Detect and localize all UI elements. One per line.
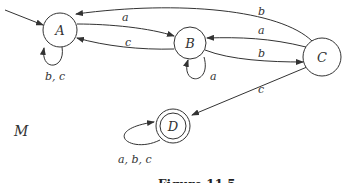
edge-label-A-B: a	[122, 11, 129, 24]
edge-label-C-A: b	[258, 5, 265, 18]
edge-C-B	[207, 38, 306, 47]
edge-B-C	[205, 50, 303, 62]
state-label-B: B	[184, 36, 195, 51]
edge-label-B-C: b	[258, 47, 265, 60]
state-label-D: D	[167, 119, 179, 134]
machine-label: M	[13, 123, 29, 139]
edge-D-D	[124, 122, 160, 145]
automaton-diagram: b, c a c b a a b c a, b, c A B C D M Fig…	[0, 0, 342, 183]
state-C: C	[303, 38, 341, 76]
edge-label-A-A: b, c	[45, 70, 65, 83]
edge-B-B	[187, 57, 206, 79]
edge-label-C-B: a	[258, 24, 265, 37]
state-label-C: C	[317, 50, 327, 65]
edge-label-B-B: a	[210, 70, 217, 83]
edge-label-C-D: c	[258, 83, 264, 96]
edge-label-D-D: a, b, c	[118, 153, 152, 166]
state-B: B	[174, 27, 206, 59]
state-label-A: A	[54, 23, 64, 38]
state-D-accepting: D	[156, 109, 190, 143]
edge-A-A	[44, 47, 63, 65]
figure-caption: Figure 11.5	[158, 178, 236, 183]
edge-A-B	[77, 24, 174, 36]
edge-label-B-A: c	[125, 36, 131, 49]
state-A: A	[43, 13, 77, 47]
start-arrow	[5, 10, 43, 25]
